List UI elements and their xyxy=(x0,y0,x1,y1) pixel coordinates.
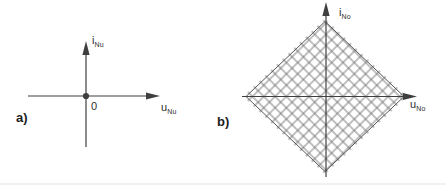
panel-b-axes xyxy=(240,2,417,180)
panel-a-x-axis-label: uNu xyxy=(161,102,176,115)
panel-a-x-axis-arrowhead xyxy=(146,92,160,99)
panel-b-tag: b) xyxy=(217,115,229,128)
panel-a-axes xyxy=(28,41,160,147)
axis-label-subscript: Nu xyxy=(94,41,103,48)
figure-two-coordinate-systems: a) iNu uNu 0 b) iNo uNo xyxy=(0,0,446,187)
panel-b-y-axis-arrowhead xyxy=(322,2,329,16)
panel-a-origin-label: 0 xyxy=(91,101,97,112)
diagram-canvas xyxy=(0,0,446,187)
axis-label-subscript: No xyxy=(341,13,350,20)
panel-a-tag: a) xyxy=(16,111,28,124)
axis-label-subscript: No xyxy=(416,105,425,112)
panel-a-y-axis-label: iNu xyxy=(92,35,104,48)
panel-b-y-axis-label: iNo xyxy=(339,7,351,20)
axis-label-subscript: Nu xyxy=(167,108,176,115)
panel-a-origin-dot xyxy=(83,93,89,99)
panel-a-y-axis-arrowhead xyxy=(82,41,89,55)
panel-b-x-axis-label: uNo xyxy=(410,99,425,112)
